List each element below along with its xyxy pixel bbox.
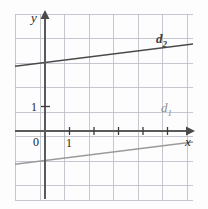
x-axis-label: x: [185, 135, 191, 148]
x-unit-label: 1: [66, 137, 72, 149]
coordinate-plot-figure: y x 0 1 1 d2 d1: [0, 0, 208, 209]
y-axis-label: y: [31, 11, 37, 24]
line-label-d1: d1: [161, 101, 172, 118]
line-label-d1-subscript: 1: [168, 108, 173, 118]
line-label-d2: d2: [156, 32, 167, 49]
y-axis-arrow: [41, 10, 50, 19]
origin-label: 0: [33, 136, 39, 148]
y-unit-label: 1: [31, 101, 37, 113]
line-label-d2-subscript: 2: [163, 39, 168, 49]
